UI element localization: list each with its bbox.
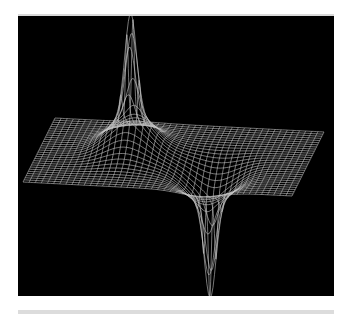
- surface-plot-panel: [18, 16, 334, 296]
- grid-line-row: [26, 176, 295, 200]
- grid-line-row: [33, 159, 302, 296]
- bottom-scrollbar-track: [18, 310, 334, 314]
- grid-line-col: [194, 127, 226, 254]
- grid-line-col: [96, 119, 128, 186]
- grid-line-col: [90, 121, 122, 186]
- wireframe-surface: [18, 16, 334, 296]
- grid-line-col: [84, 121, 116, 185]
- grid-line-col: [170, 126, 202, 192]
- grid-line-row: [43, 79, 312, 156]
